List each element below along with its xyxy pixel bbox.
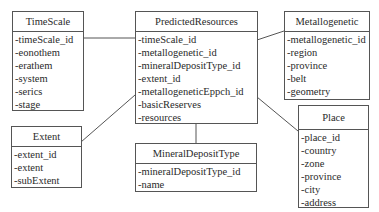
attribute: -subExtent bbox=[14, 174, 81, 187]
entity-place[interactable]: Place -place_id -country -zone -province… bbox=[298, 105, 369, 208]
attribute: -serics bbox=[15, 85, 83, 98]
entity-mineraldeposittype[interactable]: MineralDepositType -mineralDepositType_i… bbox=[135, 143, 257, 192]
attribute: -geometry bbox=[287, 85, 369, 98]
attribute: -eonothem bbox=[15, 46, 83, 59]
attribute: -system bbox=[15, 72, 83, 85]
link-predicted-extent bbox=[81, 95, 135, 142]
attribute: -city bbox=[301, 183, 368, 196]
attribute: -timeScale_id bbox=[138, 33, 257, 46]
attribute: -mineralDepositType_id bbox=[138, 59, 257, 72]
attribute: -timeScale_id bbox=[15, 33, 83, 46]
attribute: -zone bbox=[301, 157, 368, 170]
attribute: -metallogenetic_id bbox=[138, 46, 257, 59]
attribute: -stage bbox=[15, 98, 83, 111]
attribute: -resources bbox=[138, 111, 257, 124]
link-predicted-metallogenetic bbox=[257, 31, 284, 40]
attribute: -extent bbox=[14, 161, 81, 174]
attribute: -place_id bbox=[301, 131, 368, 144]
link-predicted-place bbox=[257, 97, 298, 131]
entity-title: Extent bbox=[12, 127, 81, 147]
attribute: -country bbox=[301, 144, 368, 157]
entity-title: MineralDepositType bbox=[136, 144, 256, 164]
attribute: -basicReserves bbox=[138, 98, 257, 111]
attribute: -belt bbox=[287, 72, 369, 85]
entity-metallogenetic[interactable]: Metallogenetic -metallogenetic_id -regio… bbox=[284, 11, 370, 100]
attribute: -erathem bbox=[15, 59, 83, 72]
attribute: -name bbox=[138, 178, 256, 191]
entity-title: PredictedResources bbox=[136, 12, 257, 32]
entity-predictedresources[interactable]: PredictedResources -timeScale_id -metall… bbox=[135, 11, 258, 124]
attribute: -province bbox=[287, 59, 369, 72]
attribute: -province bbox=[301, 170, 368, 183]
entity-title: TimeScale bbox=[13, 12, 83, 32]
attribute: -metallogenetic_id bbox=[287, 33, 369, 46]
entity-title: Place bbox=[299, 106, 368, 130]
entity-extent[interactable]: Extent -extent_id -extent -subExtent bbox=[11, 126, 82, 188]
attribute: -metallogeneticEppch_id bbox=[138, 85, 257, 98]
attribute: -mineralDepositType_id bbox=[138, 165, 256, 178]
attribute: -extent_id bbox=[14, 148, 81, 161]
attribute: -address bbox=[301, 196, 368, 209]
attribute: -region bbox=[287, 46, 369, 59]
entity-timescale[interactable]: TimeScale -timeScale_id -eonothem -erath… bbox=[12, 11, 84, 111]
attribute: -extent_id bbox=[138, 72, 257, 85]
entity-title: Metallogenetic bbox=[285, 12, 369, 32]
